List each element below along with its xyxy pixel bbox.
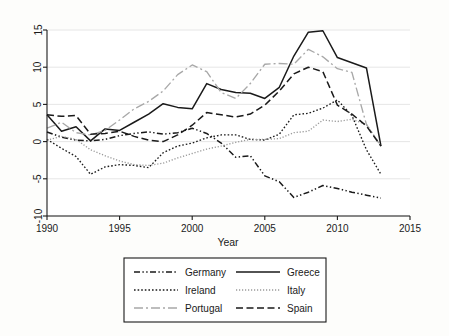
plot-area-background — [47, 30, 410, 216]
x-tick-label: 2000 — [181, 223, 204, 234]
y-tick-label: -10 — [33, 208, 44, 223]
x-tick-label: 2010 — [326, 223, 349, 234]
y-tick-label: 5 — [33, 101, 44, 107]
legend: GermanyGreeceIrelandItalyPortugalSpain — [124, 258, 326, 322]
y-tick-label: 10 — [33, 61, 44, 73]
y-tick-label: -5 — [33, 174, 44, 183]
chart-figure: 151050-5-10 199019952000200520102015 Yea… — [0, 0, 449, 336]
x-tick-label: 1990 — [36, 223, 59, 234]
legend-label-ireland: Ireland — [185, 285, 216, 296]
x-tick-label: 2015 — [399, 223, 422, 234]
x-tick-label: 1995 — [108, 223, 131, 234]
legend-label-greece: Greece — [287, 267, 320, 278]
legend-label-germany: Germany — [185, 267, 226, 278]
x-tick-label: 2005 — [254, 223, 277, 234]
x-axis-title: Year — [217, 236, 239, 248]
y-tick-label: 0 — [33, 138, 44, 144]
legend-label-italy: Italy — [287, 285, 305, 296]
legend-label-spain: Spain — [287, 303, 313, 314]
line-chart: 151050-5-10 199019952000200520102015 Yea… — [0, 0, 449, 336]
y-tick-label: 15 — [33, 24, 44, 36]
legend-label-portugal: Portugal — [185, 303, 222, 314]
